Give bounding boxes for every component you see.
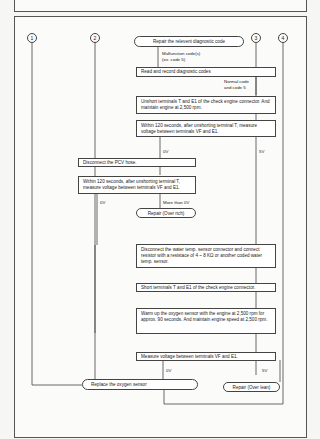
label-m1-5v: 5V [259, 149, 264, 155]
measure1-box: Within 120 seconds, after unshorting ter… [136, 120, 276, 137]
measure3-box: Measure voltage between terminals VF and… [136, 352, 276, 361]
start-node: Repair the relevent diagnostic code [134, 36, 244, 47]
pcv-box: Disconnect the PCV hose. [78, 158, 196, 167]
flow-lines [0, 0, 320, 439]
label-m3-0v: 0V [166, 368, 171, 374]
water-temp-box: Disconnect the water temp. sensor connec… [136, 244, 276, 268]
connector-4: 4 [278, 33, 288, 43]
connector-1: 1 [27, 33, 37, 43]
connector-2: 2 [90, 33, 100, 43]
label-m1-0v: 0V [163, 149, 168, 155]
repair-lean-node: Repair (Over lean) [223, 382, 280, 392]
read-codes-box: Read and record diagnostic codes [136, 67, 276, 77]
label-m2-more: More than 0V [163, 200, 189, 206]
label-m3-5v: 5V [262, 368, 267, 374]
short-box: Short terminals T and E1 of the check en… [136, 283, 276, 292]
measure2-box: Within 120 seconds, after unshorting ter… [78, 176, 196, 194]
label-normal: Normal codeand code 5 [224, 79, 249, 90]
label-m2-0v: 0V [100, 200, 105, 206]
repair-rich-node: Repair (Over rich) [136, 208, 196, 218]
label-malfunction: Malfunction code(s)(ex. code 5) [162, 51, 200, 62]
replace-sensor-node: Replace the oxygen sensor [82, 379, 198, 390]
warmup-box: Warm up the oxygen sensor with the engin… [136, 308, 276, 334]
connector-3: 3 [251, 33, 261, 43]
unshort-box: Unshort terminals T and E1 of the check … [136, 96, 276, 114]
